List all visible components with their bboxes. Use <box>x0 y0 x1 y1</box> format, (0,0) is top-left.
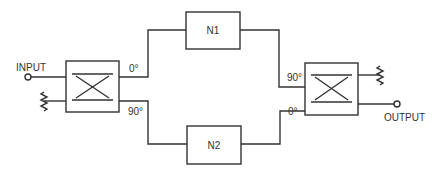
left-top-phase-label: 0° <box>129 63 139 74</box>
output-terminal-icon <box>394 101 400 107</box>
input-label: INPUT <box>16 62 46 73</box>
output-termination-resistor-icon <box>358 66 383 85</box>
output-port: OUTPUT <box>358 101 425 123</box>
n1-block: N1 <box>186 12 240 49</box>
input-hybrid-coupler <box>66 61 119 112</box>
left-bottom-phase-label: 90° <box>128 106 143 117</box>
right-top-phase-label: 90° <box>287 72 302 83</box>
n2-block: N2 <box>187 126 241 164</box>
right-bottom-phase-label: 0° <box>288 106 298 117</box>
input-port: INPUT <box>16 62 66 80</box>
input-termination-resistor-icon <box>41 92 66 111</box>
input-terminal-icon <box>25 74 31 80</box>
output-label: OUTPUT <box>384 112 425 123</box>
n1-label: N1 <box>207 25 220 36</box>
balanced-amplifier-diagram: INPUT N1 N2 0° 90° 90° 0° <box>0 0 434 172</box>
output-hybrid-coupler <box>305 63 358 115</box>
n2-label: N2 <box>208 140 221 151</box>
